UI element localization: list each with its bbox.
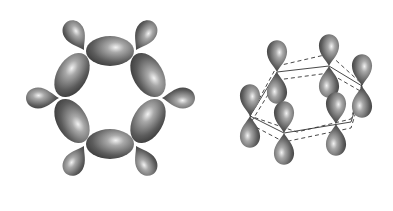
sigma-bond-lobes <box>47 36 173 159</box>
right-p-orbitals <box>240 34 372 164</box>
ring-outlines <box>250 54 362 142</box>
left-sigma-framework <box>26 16 195 180</box>
benzene-orbital-diagram <box>0 0 393 211</box>
